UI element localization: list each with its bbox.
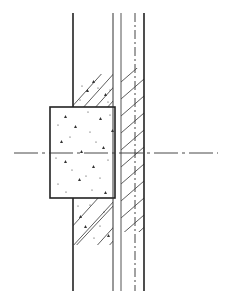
upper-aggregate-dots xyxy=(79,80,110,103)
diagram-canvas: wall-section-detail xyxy=(0,0,230,305)
lower-aggregate-dots xyxy=(77,204,110,238)
lower-hatch-fill xyxy=(60,196,125,260)
wall-section-drawing xyxy=(0,0,230,305)
